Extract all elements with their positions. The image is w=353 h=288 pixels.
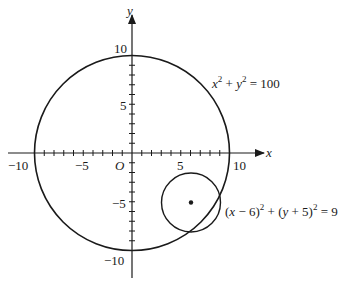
coordinate-diagram: x y O −10 −5 5 10 10 5 −5 −10 x2 + y2 = … xyxy=(0,0,353,288)
x-tick-label-neg5: −5 xyxy=(75,158,89,173)
small-circle-center-dot xyxy=(189,200,193,204)
y-tick-label-neg10: −10 xyxy=(104,253,124,268)
x-tick-label-5: 5 xyxy=(177,158,184,173)
x-axis-label: x xyxy=(265,145,272,160)
eq2-minus: − 6) xyxy=(235,204,260,219)
x-tick-label-neg10: −10 xyxy=(8,158,28,173)
eq1-plus: + xyxy=(222,76,236,91)
eq1-rhs: = 100 xyxy=(246,76,279,91)
x-tick-label-10: 10 xyxy=(233,158,246,173)
eq2-rhs: = 9 xyxy=(317,204,337,219)
y-axis-label: y xyxy=(125,3,133,18)
large-circle-equation: x2 + y2 = 100 xyxy=(211,74,280,91)
small-circle-equation: (x − 6)2 + (y + 5)2 = 9 xyxy=(225,202,338,219)
y-tick-label-10: 10 xyxy=(114,41,127,56)
eq2-plus: + ( xyxy=(264,204,282,219)
eq2-plus5: + 5) xyxy=(288,204,313,219)
origin-label: O xyxy=(115,158,125,173)
y-tick-label-5: 5 xyxy=(120,98,127,113)
y-tick-label-neg5: −5 xyxy=(112,196,126,211)
